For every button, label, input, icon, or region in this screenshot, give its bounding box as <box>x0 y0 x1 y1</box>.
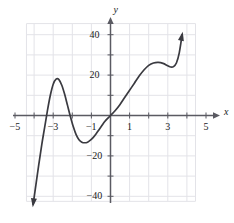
curve-path <box>33 35 182 205</box>
y-axis-arrow <box>107 17 113 24</box>
x-tick-label: −1 <box>86 122 97 132</box>
curve-arrow-start <box>31 198 37 207</box>
x-tick-label: 1 <box>127 122 132 132</box>
y-tick-label: 40 <box>90 30 100 40</box>
function-curve <box>31 32 184 208</box>
y-tick-label: −40 <box>87 191 103 201</box>
y-tick-label: 20 <box>90 70 100 80</box>
x-tick-label: −5 <box>10 122 21 132</box>
x-tick-label: −3 <box>48 122 59 132</box>
graph-figure: −5−3−11354020−20−40 x y <box>0 0 234 223</box>
coordinate-plane <box>0 0 234 223</box>
x-axis-label: x <box>224 107 228 117</box>
x-tick-label: 5 <box>204 122 209 132</box>
x-axis-arrow <box>213 112 220 118</box>
y-axis-label: y <box>114 5 118 15</box>
curve-arrow-end <box>178 32 184 41</box>
y-tick-label: −20 <box>87 151 103 161</box>
x-tick-label: 3 <box>165 122 170 132</box>
